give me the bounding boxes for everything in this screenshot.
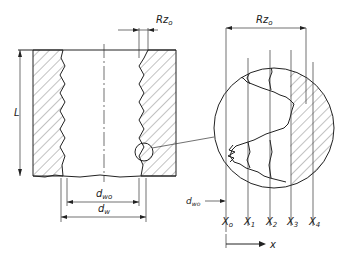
rz-top-label: Rzo [156,14,173,27]
length-label: L [14,107,20,118]
x3-label: X3 [286,216,298,229]
bore-section: Rzo L dwo dw [14,14,214,222]
x1-label: X1 [243,216,255,229]
detail-rz-label: Rzo [256,14,273,27]
dwo-label: dwo [96,188,112,201]
x0-label: Xo [221,216,233,229]
left-wall [33,50,65,176]
roughness-profile [228,70,294,182]
x4-label: X4 [308,216,320,229]
dw-label: dw [98,203,110,216]
detail-dwo-label: dwo [186,196,201,207]
detail-view: Rzo dwo Xo X1 X2 X3 X4 [186,14,340,250]
diagram-canvas: Rzo L dwo dw Rzo [0,0,347,261]
x-axis-label: x [269,239,276,250]
x2-label: X2 [265,216,278,229]
right-wall [139,50,176,176]
